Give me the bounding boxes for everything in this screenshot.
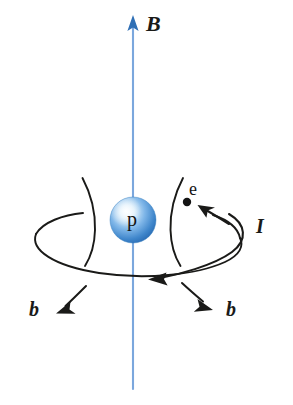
b-arrow-left-shaft	[66, 286, 87, 306]
label-field-line-right: b	[226, 299, 236, 319]
label-magnetic-field: B	[146, 13, 161, 35]
b-arrow-right-shaft	[182, 283, 203, 302]
physics-diagram	[0, 0, 293, 405]
label-current: I	[256, 216, 264, 236]
label-electron: e	[189, 180, 197, 198]
current-arrow-shaft	[206, 210, 229, 224]
field-line-left-curve	[83, 178, 96, 266]
figure-canvas: { "figure": { "title": "Magnetic field o…	[0, 0, 293, 405]
current-arrow-to-electron	[198, 205, 230, 224]
arrow-down-left-icon	[56, 302, 76, 314]
arrow-left-icon	[148, 273, 168, 286]
arrow-curved-left-icon	[198, 205, 216, 218]
orbit-arc-upper-left	[36, 213, 83, 234]
field-line-right-curve	[170, 178, 183, 266]
label-proton: p	[127, 209, 137, 229]
b-arrow-right	[182, 283, 213, 312]
label-field-line-left: b	[29, 299, 39, 319]
electron-dot	[183, 198, 191, 206]
b-arrow-left	[56, 286, 86, 314]
